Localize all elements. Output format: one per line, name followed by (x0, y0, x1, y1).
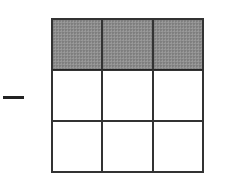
minus-sign-icon (3, 96, 24, 99)
grid-cell-empty (52, 70, 102, 121)
grid-cell-empty (102, 121, 152, 172)
fraction-grid (51, 18, 204, 173)
grid-cell-empty (102, 70, 152, 121)
grid-cell-shaded (52, 19, 102, 70)
grid-cell-empty (153, 70, 203, 121)
grid-cell-empty (153, 121, 203, 172)
grid-cell-empty (52, 121, 102, 172)
grid-cell-shaded (153, 19, 203, 70)
grid-cell-shaded (102, 19, 152, 70)
